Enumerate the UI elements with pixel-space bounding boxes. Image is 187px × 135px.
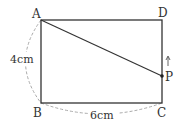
vertex-label-a: A xyxy=(31,7,41,21)
point-p-dot xyxy=(160,74,164,78)
point-label-p: P xyxy=(165,70,173,84)
vertex-label-d: D xyxy=(158,6,168,20)
rectangle-abcd xyxy=(41,20,162,103)
geometry-diagram: A D B C P 4cm 6cm xyxy=(0,0,187,135)
vertex-label-b: B xyxy=(33,106,42,120)
vertex-label-c: C xyxy=(157,106,166,120)
width-dimension-label: 6cm xyxy=(90,109,114,122)
height-dimension-label: 4cm xyxy=(10,53,34,66)
segment-ap xyxy=(41,20,162,76)
